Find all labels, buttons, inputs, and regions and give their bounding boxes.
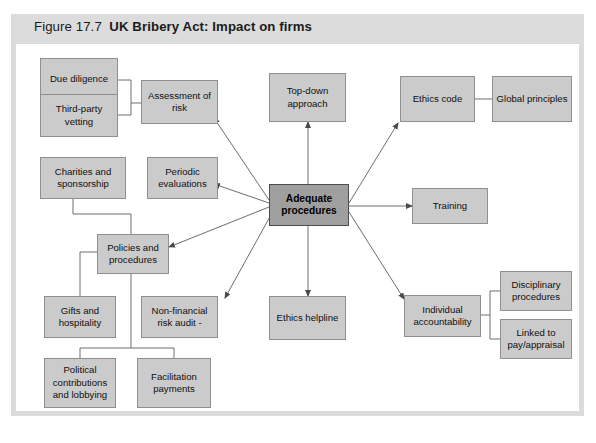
node-ethics-helpline-label: Ethics helpline	[272, 312, 343, 324]
node-training-label: Training	[415, 200, 485, 212]
node-ethics-helpline[interactable]: Ethics helpline	[269, 296, 346, 340]
node-charities-and-sponsorship-label: Charities and sponsorship	[43, 166, 123, 191]
node-non-financial-risk-audit[interactable]: Non-financial risk audit -	[141, 296, 218, 338]
figure-title-text: UK Bribery Act: Impact on firms	[109, 19, 312, 34]
node-periodic-evaluations[interactable]: Periodic evaluations	[147, 157, 218, 199]
node-non-financial-risk-audit-label: Non-financial risk audit -	[144, 305, 215, 330]
node-charities-and-sponsorship[interactable]: Charities and sponsorship	[40, 157, 126, 199]
node-third-party-vetting[interactable]: Third-party vetting	[40, 94, 118, 137]
node-policies-and-procedures-label: Policies and procedures	[100, 242, 166, 267]
node-disciplinary-procedures[interactable]: Disciplinary procedures	[500, 271, 572, 311]
node-training[interactable]: Training	[412, 188, 488, 224]
node-top-down-approach[interactable]: Top-down approach	[269, 73, 346, 122]
node-ethics-code[interactable]: Ethics code	[400, 76, 475, 122]
node-linked-to-pay-appraisal-label: Linked to pay/appraisal	[503, 327, 569, 352]
node-assessment-of-risk[interactable]: Assessment of risk	[141, 80, 218, 124]
node-gifts-and-hospitality[interactable]: Gifts and hospitality	[44, 296, 116, 338]
node-third-party-vetting-label: Third-party vetting	[43, 103, 115, 128]
node-adequate-procedures[interactable]: Adequate procedures	[269, 184, 349, 226]
node-gifts-and-hospitality-label: Gifts and hospitality	[47, 305, 113, 330]
node-disciplinary-procedures-label: Disciplinary procedures	[503, 279, 569, 304]
node-ethics-code-label: Ethics code	[403, 93, 472, 105]
figure-number: Figure 17.7	[34, 19, 102, 34]
node-facilitation-payments-label: Facilitation payments	[140, 371, 208, 396]
node-policies-and-procedures[interactable]: Policies and procedures	[97, 234, 169, 274]
node-global-principles[interactable]: Global principles	[492, 76, 572, 122]
node-political-contributions-label: Political contributions and lobbying	[47, 364, 113, 401]
figure-title: Figure 17.7 UK Bribery Act: Impact on fi…	[34, 19, 312, 34]
node-political-contributions[interactable]: Political contributions and lobbying	[44, 358, 116, 408]
node-linked-to-pay-appraisal[interactable]: Linked to pay/appraisal	[500, 319, 572, 359]
figure-container: Figure 17.7 UK Bribery Act: Impact on fi…	[0, 0, 596, 443]
node-periodic-evaluations-label: Periodic evaluations	[150, 166, 215, 191]
node-adequate-procedures-label: Adequate procedures	[272, 193, 346, 218]
node-individual-accountability-label: Individual accountability	[407, 304, 478, 329]
node-assessment-of-risk-label: Assessment of risk	[144, 90, 215, 115]
node-due-diligence-label: Due diligence	[43, 73, 115, 85]
node-top-down-approach-label: Top-down approach	[272, 85, 343, 110]
node-facilitation-payments[interactable]: Facilitation payments	[137, 358, 211, 408]
node-global-principles-label: Global principles	[495, 93, 569, 105]
node-individual-accountability[interactable]: Individual accountability	[404, 295, 481, 337]
